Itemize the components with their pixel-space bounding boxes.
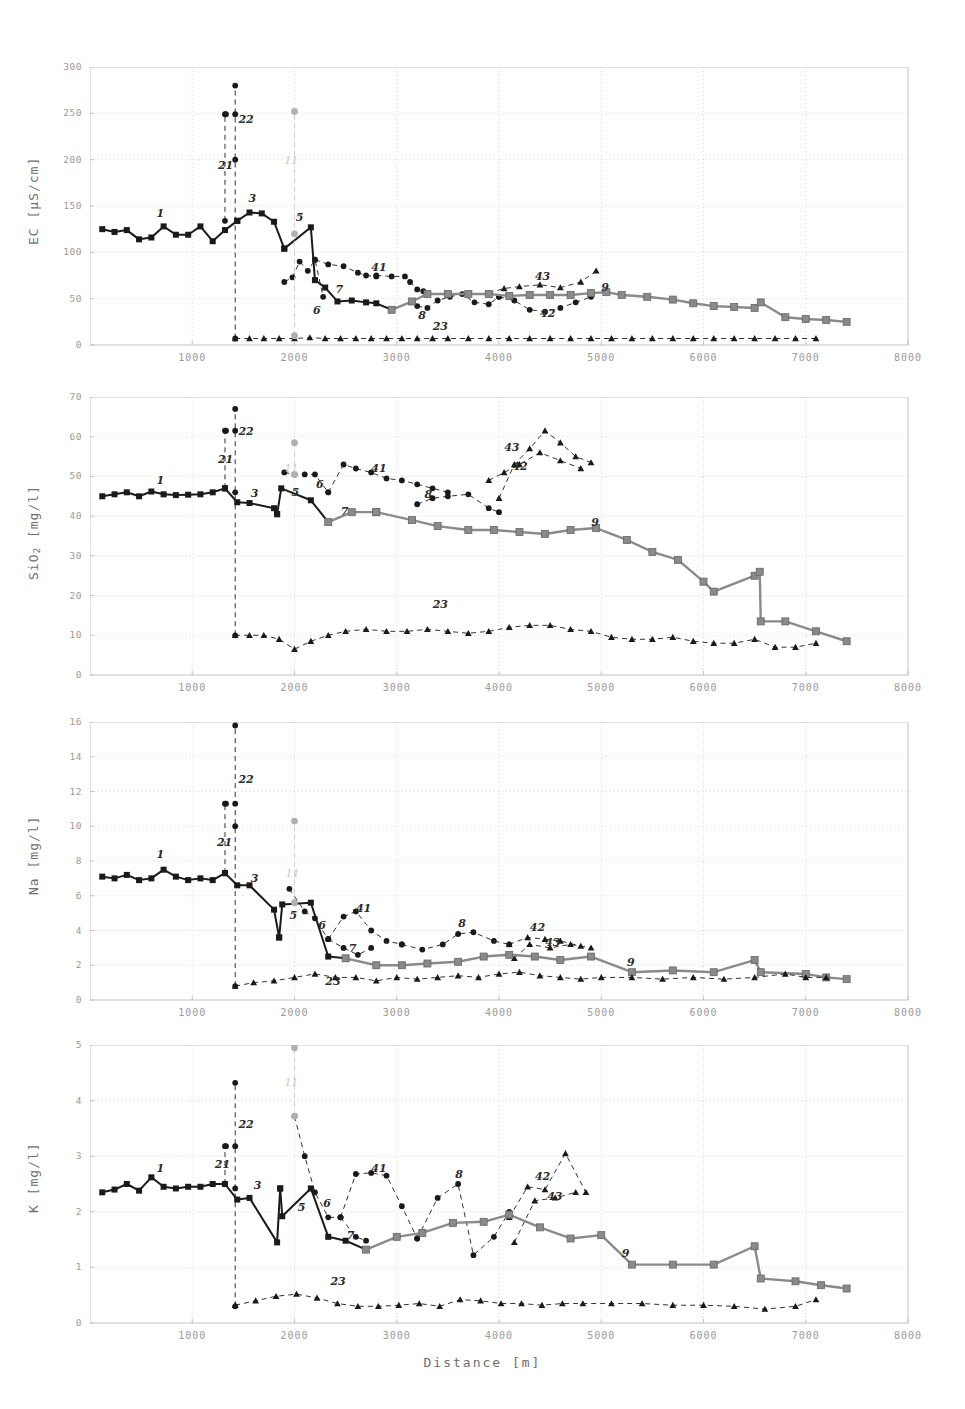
series-9-marker bbox=[547, 291, 554, 298]
series-5-marker bbox=[363, 299, 369, 305]
panel-ec: EC [µS/cm] 13567418424392122231105010015… bbox=[0, 0, 965, 370]
series-9-marker bbox=[823, 316, 830, 323]
series-23-marker bbox=[291, 646, 298, 652]
series-42-marker bbox=[485, 477, 492, 483]
panel-na-ytick: 16 bbox=[48, 716, 82, 727]
series-41-marker bbox=[399, 1203, 405, 1209]
series-label-42: 42 bbox=[540, 307, 555, 320]
series-9-marker bbox=[449, 1219, 456, 1226]
x-axis-title: Distance [m] bbox=[0, 1355, 965, 1370]
series-42-marker bbox=[501, 469, 508, 475]
series-label-21: 21 bbox=[217, 836, 232, 849]
panel-na-ytick: 2 bbox=[48, 959, 82, 970]
series-1-marker bbox=[210, 489, 216, 495]
series-22-marker bbox=[232, 823, 238, 829]
series-9-marker bbox=[757, 1275, 764, 1282]
series-9-marker bbox=[812, 628, 819, 635]
series-5-marker bbox=[373, 300, 379, 306]
series-9-marker bbox=[710, 1261, 717, 1268]
panel-na-ytick: 4 bbox=[48, 925, 82, 936]
panel-ec-ytick: 100 bbox=[48, 246, 82, 257]
series-label-6: 6 bbox=[323, 1197, 331, 1210]
series-9-marker bbox=[710, 303, 717, 310]
series-label-8: 8 bbox=[458, 917, 466, 930]
panel-k-canvas bbox=[90, 1045, 910, 1325]
series-22-marker bbox=[232, 406, 238, 412]
series-9-marker bbox=[843, 318, 850, 325]
series-3-marker bbox=[271, 219, 277, 225]
series-9-line bbox=[366, 1215, 847, 1289]
series-5-line bbox=[277, 488, 328, 522]
series-label-3: 3 bbox=[251, 487, 259, 500]
series-label-6: 6 bbox=[313, 304, 321, 317]
series-41-marker bbox=[407, 279, 413, 285]
series-label-1: 1 bbox=[157, 207, 165, 220]
series-label-11: 11 bbox=[285, 867, 299, 880]
series-1-marker bbox=[185, 492, 191, 498]
series-7-marker bbox=[355, 270, 361, 276]
series-9-marker bbox=[388, 306, 395, 313]
series-1-marker bbox=[185, 877, 191, 883]
series-23-marker bbox=[813, 1296, 820, 1302]
series-3-marker bbox=[271, 505, 277, 511]
series-9-marker bbox=[782, 618, 789, 625]
series-23-marker bbox=[516, 969, 523, 975]
series-9-marker bbox=[802, 316, 809, 323]
series-5-marker bbox=[334, 298, 340, 304]
panel-k-ytick: 0 bbox=[48, 1317, 82, 1328]
series-1-marker bbox=[148, 1174, 154, 1180]
figure-root: EC [µS/cm] 13567418424392122231105010015… bbox=[0, 0, 965, 1409]
series-label-21: 21 bbox=[218, 453, 233, 466]
series-label-6: 6 bbox=[318, 919, 326, 932]
series-41-marker bbox=[384, 476, 390, 482]
panel-ec-ytick: 300 bbox=[48, 61, 82, 72]
series-label-22: 22 bbox=[238, 425, 253, 438]
series-7-marker bbox=[325, 936, 331, 942]
series-42-marker bbox=[527, 307, 533, 313]
series-42-marker bbox=[524, 934, 531, 940]
series-43-line bbox=[514, 1192, 575, 1242]
series-9-marker bbox=[700, 578, 707, 585]
series-8-marker bbox=[491, 938, 497, 944]
series-3-marker bbox=[247, 500, 253, 506]
series-label-8: 8 bbox=[424, 488, 432, 501]
series-1-marker bbox=[197, 223, 203, 229]
series-5-marker bbox=[322, 285, 328, 291]
series-5-marker bbox=[281, 246, 287, 252]
series-22-marker bbox=[232, 83, 238, 89]
series-1-marker bbox=[124, 227, 130, 233]
series-9-marker bbox=[506, 292, 513, 299]
panel-k-ytick: 3 bbox=[48, 1150, 82, 1161]
series-6-marker bbox=[302, 908, 308, 914]
series-21-marker bbox=[222, 218, 228, 224]
series-11-marker bbox=[291, 230, 298, 237]
panel-k-ytick: 1 bbox=[48, 1261, 82, 1272]
series-8-marker bbox=[496, 509, 502, 515]
series-23-marker bbox=[526, 622, 533, 628]
series-label-22: 22 bbox=[238, 1118, 253, 1131]
series-label-23: 23 bbox=[433, 598, 448, 611]
series-9-marker bbox=[506, 951, 513, 958]
series-5-marker bbox=[279, 901, 285, 907]
panel-k-xtick: 2000 bbox=[265, 1330, 325, 1341]
panel-k-xtick: 1000 bbox=[162, 1330, 222, 1341]
series-label-41: 41 bbox=[371, 1162, 386, 1175]
series-43-marker bbox=[557, 439, 564, 445]
series-9-marker bbox=[465, 291, 472, 298]
series-label-7: 7 bbox=[347, 1229, 355, 1242]
series-7-marker bbox=[363, 273, 369, 279]
panel-ec-ytick: 250 bbox=[48, 107, 82, 118]
series-11-marker bbox=[291, 1045, 298, 1051]
panel-na: Na [mg/l] 135641784243921222311024681012… bbox=[0, 655, 965, 1015]
series-41-marker bbox=[368, 928, 374, 934]
series-1-marker bbox=[210, 238, 216, 244]
series-23-marker bbox=[690, 638, 697, 644]
series-8-marker bbox=[472, 299, 478, 305]
series-label-6: 6 bbox=[316, 478, 324, 491]
series-9-marker bbox=[444, 291, 451, 298]
series-41-marker bbox=[414, 287, 420, 293]
series-5-marker bbox=[308, 224, 314, 230]
series-43-marker bbox=[588, 944, 595, 950]
series-9-line bbox=[376, 512, 846, 641]
series-label-9: 9 bbox=[622, 1247, 630, 1260]
